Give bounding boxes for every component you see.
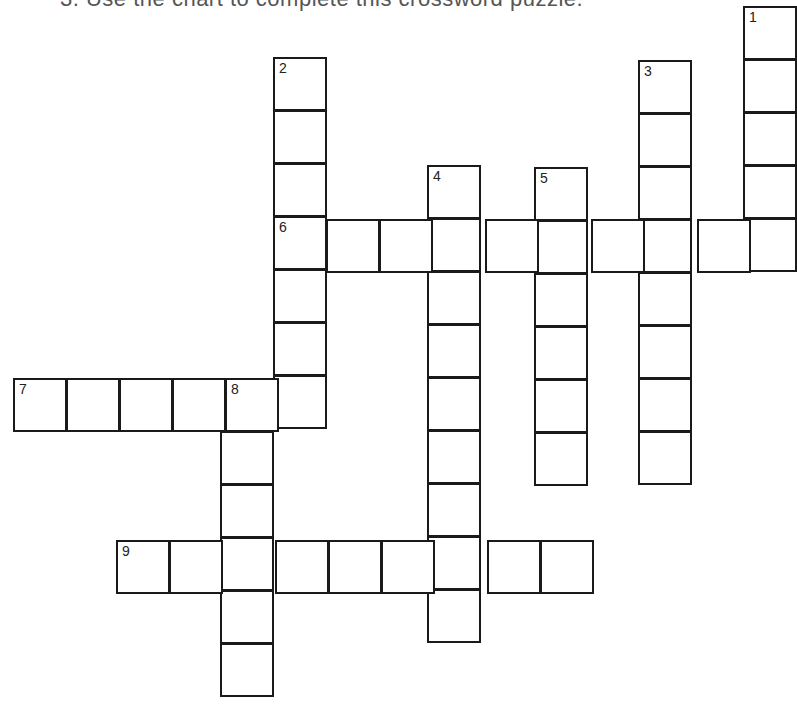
- crossword-cell[interactable]: [379, 219, 433, 273]
- crossword-cell[interactable]: [638, 272, 692, 326]
- crossword-cell[interactable]: [743, 218, 797, 272]
- crossword-cell[interactable]: [743, 59, 797, 113]
- crossword-cell[interactable]: [427, 377, 481, 431]
- crossword-cell[interactable]: 2: [273, 57, 327, 111]
- crossword-cell[interactable]: [487, 540, 541, 594]
- clue-number: 7: [19, 381, 27, 397]
- crossword-cell[interactable]: [427, 536, 481, 590]
- crossword-cell[interactable]: 7: [13, 378, 67, 432]
- crossword-cell[interactable]: [638, 431, 692, 485]
- crossword-cell[interactable]: [540, 540, 594, 594]
- crossword-cell[interactable]: [638, 113, 692, 167]
- crossword-cell[interactable]: [381, 540, 435, 594]
- crossword-cell[interactable]: [743, 112, 797, 166]
- crossword-cell[interactable]: [275, 540, 329, 594]
- crossword-cell[interactable]: [273, 163, 327, 217]
- clue-number: 6: [279, 219, 287, 235]
- crossword-cell[interactable]: [220, 537, 274, 591]
- crossword-cell[interactable]: [534, 379, 588, 433]
- clue-number: 9: [122, 543, 130, 559]
- crossword-cell[interactable]: [427, 483, 481, 537]
- crossword-cell[interactable]: 8: [225, 378, 279, 432]
- clue-number: 2: [279, 60, 287, 76]
- crossword-cell[interactable]: 3: [638, 60, 692, 114]
- crossword-cell[interactable]: [638, 325, 692, 379]
- crossword-cell[interactable]: [534, 273, 588, 327]
- crossword-cell[interactable]: [273, 375, 327, 429]
- clue-number: 1: [749, 9, 757, 25]
- crossword-cell[interactable]: [427, 324, 481, 378]
- clue-number: 5: [540, 170, 548, 186]
- crossword-cell[interactable]: 6: [273, 216, 327, 270]
- crossword-cell[interactable]: [534, 220, 588, 274]
- crossword-cell[interactable]: [427, 589, 481, 643]
- clue-number: 8: [231, 381, 239, 397]
- crossword-cell[interactable]: [638, 378, 692, 432]
- clue-number: 4: [433, 168, 441, 184]
- crossword-cell[interactable]: [534, 326, 588, 380]
- crossword-cell[interactable]: [743, 165, 797, 219]
- crossword-cell[interactable]: [326, 219, 380, 273]
- crossword-cell[interactable]: [220, 484, 274, 538]
- crossword-cell[interactable]: [273, 322, 327, 376]
- crossword-cell[interactable]: [220, 643, 274, 697]
- crossword-cell[interactable]: [638, 166, 692, 220]
- crossword-cell[interactable]: [220, 431, 274, 485]
- crossword-cell[interactable]: [220, 590, 274, 644]
- crossword-cell[interactable]: [172, 378, 226, 432]
- crossword-cell[interactable]: [328, 540, 382, 594]
- crossword-cell[interactable]: [697, 219, 751, 273]
- crossword-cell[interactable]: [119, 378, 173, 432]
- crossword-cell[interactable]: [273, 110, 327, 164]
- crossword-cell[interactable]: 1: [743, 6, 797, 60]
- crossword-cell[interactable]: [427, 218, 481, 272]
- crossword-cell[interactable]: [485, 219, 539, 273]
- crossword-cell[interactable]: 5: [534, 167, 588, 221]
- clue-number: 3: [644, 63, 652, 79]
- crossword-cell[interactable]: [427, 271, 481, 325]
- crossword-cell[interactable]: [534, 432, 588, 486]
- crossword-cell[interactable]: [427, 430, 481, 484]
- crossword-cell[interactable]: [273, 269, 327, 323]
- crossword-cell[interactable]: [169, 540, 223, 594]
- crossword-cell[interactable]: [591, 219, 645, 273]
- crossword-cell[interactable]: 4: [427, 165, 481, 219]
- crossword-cell[interactable]: [638, 219, 692, 273]
- crossword-cell[interactable]: 9: [116, 540, 170, 594]
- crossword-cell[interactable]: [66, 378, 120, 432]
